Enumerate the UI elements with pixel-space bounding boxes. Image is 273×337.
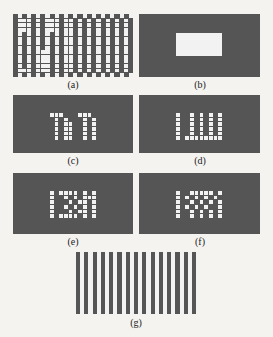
pattern-cell: [129, 50, 133, 54]
pattern-cell: [69, 210, 73, 214]
pattern-cell: [36, 28, 40, 32]
pattern-cell: [124, 37, 128, 41]
pattern-cell: [87, 69, 91, 73]
pattern-cell: [22, 41, 26, 45]
pattern-cell: [96, 19, 100, 23]
pattern-cell: [36, 19, 40, 23]
pattern-cell: [176, 118, 180, 122]
pattern-cell: [120, 32, 124, 36]
pattern-cell: [88, 118, 92, 122]
pattern-cell: [69, 73, 73, 77]
pattern-cell: [83, 210, 87, 214]
pattern-cell: [78, 64, 82, 68]
pattern-cell: [22, 46, 26, 50]
pattern-cell: [218, 122, 222, 126]
pattern-cell: [96, 32, 100, 36]
pattern-cell: [50, 127, 54, 131]
pattern-cell: [27, 69, 31, 73]
pattern-cell: [45, 50, 49, 54]
pattern-cell: [92, 46, 96, 50]
pattern-cell: [50, 136, 54, 140]
pattern-cell: [204, 191, 208, 195]
pattern-cell: [59, 210, 63, 214]
pattern-cell: [27, 64, 31, 68]
pattern-cell: [190, 136, 194, 140]
pattern-cell: [41, 28, 45, 32]
pattern-cell: [92, 14, 96, 18]
pattern-cell: [101, 37, 105, 41]
pattern-cell: [50, 55, 54, 59]
pattern-cell: [78, 191, 82, 195]
pattern-cell: [32, 69, 36, 73]
pattern-cell: [181, 118, 185, 122]
pattern-cell: [69, 191, 73, 195]
pattern-cell: [120, 37, 124, 41]
pattern-cell: [22, 59, 26, 63]
pattern-cell: [204, 136, 208, 140]
pattern-cell: [27, 41, 31, 45]
pattern-cell: [73, 23, 77, 27]
pattern-cell: [69, 122, 73, 126]
pattern-cell: [59, 69, 63, 73]
pattern-cell: [59, 32, 63, 36]
pattern-cell: [195, 210, 199, 214]
pattern-cell: [88, 113, 92, 117]
pattern-cell: [55, 28, 59, 32]
pattern-cell: [59, 55, 63, 59]
pattern-cell: [13, 55, 17, 59]
pattern-cell: [83, 55, 87, 59]
pattern-cell: [92, 55, 96, 59]
pattern-cell: [50, 214, 54, 218]
pattern-cell: [55, 23, 59, 27]
pattern-cell: [190, 118, 194, 122]
pattern-cell: [64, 73, 68, 77]
pattern-cell: [115, 32, 119, 36]
pattern-cell: [190, 214, 194, 218]
pattern-cell: [204, 205, 208, 209]
pattern-cell: [45, 37, 49, 41]
pattern-cell: [59, 127, 63, 131]
pattern-cell: [55, 59, 59, 63]
pattern-cell: [218, 113, 222, 117]
pattern-cell: [129, 73, 133, 77]
pattern-cell: [106, 69, 110, 73]
pattern-cell: [78, 37, 82, 41]
pattern-cell: [115, 73, 119, 77]
pattern-cell: [45, 55, 49, 59]
pattern-cell: [92, 127, 96, 131]
pattern-cell: [50, 46, 54, 50]
pattern-cell: [124, 64, 128, 68]
pattern-cell: [195, 196, 199, 200]
pattern-cell: [101, 32, 105, 36]
pattern-cell: [101, 19, 105, 23]
pattern-cell: [27, 14, 31, 18]
pattern-cell: [55, 122, 59, 126]
pattern-cell: [78, 41, 82, 45]
pattern-cell: [181, 191, 185, 195]
pattern-cell: [88, 122, 92, 126]
pattern-cell: [41, 19, 45, 23]
pattern-cell: [195, 136, 199, 140]
pattern-cell: [50, 23, 54, 27]
pattern-cell: [69, 118, 73, 122]
pattern-cell: [50, 200, 54, 204]
pattern-cell: [181, 196, 185, 200]
pattern-cell: [88, 205, 92, 209]
pattern-cell: [83, 50, 87, 54]
pattern-cell: [13, 46, 17, 50]
pattern-cell: [78, 14, 82, 18]
pattern-cell: [73, 41, 77, 45]
pattern-cell: [55, 69, 59, 73]
pattern-cell: [69, 136, 73, 140]
pattern-cell: [190, 113, 194, 117]
pattern-cell: [22, 19, 26, 23]
pattern-cell: [209, 200, 213, 204]
pattern-cell: [124, 32, 128, 36]
pattern-cell: [204, 132, 208, 136]
pattern-cell: [73, 59, 77, 63]
pattern-cell: [124, 23, 128, 27]
pattern-cell: [73, 46, 77, 50]
pattern-cell: [50, 50, 54, 54]
pattern-cell: [59, 23, 63, 27]
pattern-cell: [69, 196, 73, 200]
